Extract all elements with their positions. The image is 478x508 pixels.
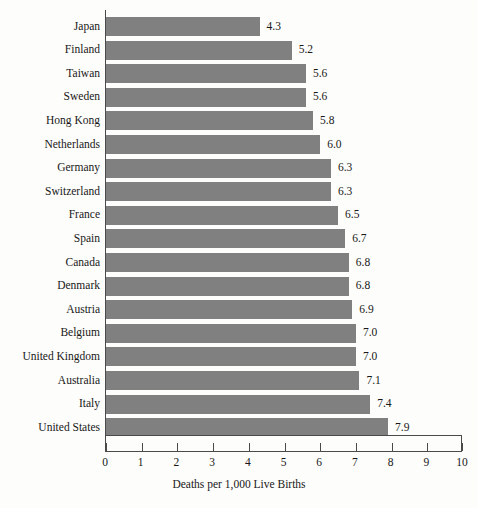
x-axis-tick-label: 9 (406, 457, 446, 469)
bar-value-label: 6.5 (345, 209, 359, 221)
category-label: Switzerland (0, 186, 100, 198)
bar-value-label: 5.8 (320, 115, 334, 127)
bar-value-label: 4.3 (267, 21, 281, 33)
x-axis-tick (462, 443, 463, 451)
x-axis-tick (356, 443, 357, 451)
category-label: Netherlands (0, 139, 100, 151)
x-axis-tick-label: 8 (371, 457, 411, 469)
bar (106, 111, 313, 130)
category-label: United States (0, 422, 100, 434)
bar (106, 159, 331, 178)
bar-value-label: 6.9 (359, 304, 373, 316)
bar (106, 135, 320, 154)
x-axis-tick (427, 443, 428, 451)
bar-value-label: 5.2 (299, 44, 313, 56)
bar-value-label: 5.6 (313, 68, 327, 80)
bar-value-label: 6.8 (356, 257, 370, 269)
category-label: Denmark (0, 280, 100, 292)
bar-value-label: 6.3 (338, 162, 352, 174)
bar-value-label: 5.6 (313, 91, 327, 103)
category-label: United Kingdom (0, 351, 100, 363)
bar (106, 17, 260, 36)
category-label: Germany (0, 162, 100, 174)
bar-value-label: 7.4 (377, 398, 391, 410)
x-axis-tick-label: 0 (85, 457, 125, 469)
x-axis-title: Deaths per 1,000 Live Births (0, 478, 478, 490)
category-label: Japan (0, 21, 100, 33)
bar-value-label: 7.1 (366, 375, 380, 387)
category-label: Spain (0, 233, 100, 245)
bar-value-label: 7.9 (395, 422, 409, 434)
bar (106, 324, 356, 343)
x-axis-tick (213, 443, 214, 451)
plot-area: 4.35.25.65.65.86.06.36.36.56.76.86.86.97… (105, 10, 462, 435)
x-axis-band (105, 435, 462, 452)
x-axis-tick (106, 443, 107, 451)
x-axis-tick-label: 6 (299, 457, 339, 469)
x-axis-tick (142, 443, 143, 451)
x-axis-tick (285, 443, 286, 451)
x-axis-tick (320, 443, 321, 451)
bar-value-label: 6.0 (327, 139, 341, 151)
category-label: Austria (0, 304, 100, 316)
category-label: Canada (0, 257, 100, 269)
x-axis-tick-label: 1 (121, 457, 161, 469)
x-axis-tick-label: 4 (228, 457, 268, 469)
bar (106, 371, 359, 390)
x-axis-tick-label: 2 (156, 457, 196, 469)
category-label: Australia (0, 375, 100, 387)
category-label: Belgium (0, 327, 100, 339)
x-axis-tick-label: 10 (442, 457, 478, 469)
bar-value-label: 7.0 (363, 327, 377, 339)
category-label: Italy (0, 398, 100, 410)
bar (106, 88, 306, 107)
category-label: Finland (0, 44, 100, 56)
bar (106, 347, 356, 366)
infant-mortality-bar-chart: JapanFinlandTaiwanSwedenHong KongNetherl… (0, 0, 478, 508)
bar (106, 253, 349, 272)
x-axis-tick (177, 443, 178, 451)
bar (106, 64, 306, 83)
category-label: Hong Kong (0, 115, 100, 127)
bar (106, 41, 292, 60)
bar-value-label: 6.8 (356, 280, 370, 292)
bar-value-label: 7.0 (363, 351, 377, 363)
x-axis-tick (392, 443, 393, 451)
bar (106, 277, 349, 296)
category-label: Taiwan (0, 68, 100, 80)
bar (106, 395, 370, 414)
bar (106, 229, 345, 248)
bar-value-label: 6.3 (338, 186, 352, 198)
x-axis-tick-label: 3 (192, 457, 232, 469)
x-axis-tick-label: 5 (264, 457, 304, 469)
bar (106, 300, 352, 319)
x-axis-tick (249, 443, 250, 451)
category-label: France (0, 209, 100, 221)
bar (106, 206, 338, 225)
bar-value-label: 6.7 (352, 233, 366, 245)
category-label: Sweden (0, 91, 100, 103)
bar (106, 182, 331, 201)
x-axis-tick-label: 7 (335, 457, 375, 469)
